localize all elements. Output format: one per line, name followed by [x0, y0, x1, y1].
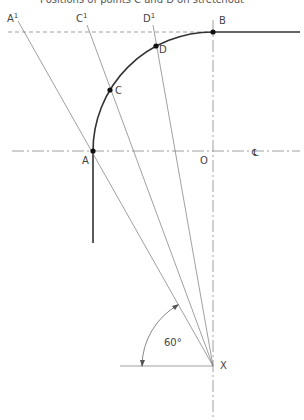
point-b: [210, 29, 215, 34]
label-c1: C1: [76, 12, 87, 24]
angle-arc: [142, 305, 178, 366]
point-a: [90, 148, 95, 153]
label-x: X: [220, 360, 227, 371]
label-c: C: [115, 85, 122, 96]
label-d: D: [159, 44, 167, 55]
label-a1: A1: [7, 12, 18, 24]
point-d: [153, 43, 158, 48]
label-b: B: [219, 15, 226, 26]
line-a1-x: [18, 21, 213, 366]
line-c1-x: [87, 25, 213, 366]
profile-curve: [93, 32, 300, 243]
angle-label: 60°: [164, 337, 182, 348]
point-c: [107, 87, 112, 92]
line-d1-x: [153, 25, 213, 366]
stretchout-diagram: A1 C1 D1 B D C A O ℄ X 60°: [0, 0, 304, 420]
centerline-symbol: ℄: [251, 147, 259, 158]
label-o: O: [200, 155, 208, 166]
label-a: A: [82, 155, 89, 166]
arrowhead-top-icon: [172, 304, 179, 310]
label-d1: D1: [143, 12, 155, 24]
